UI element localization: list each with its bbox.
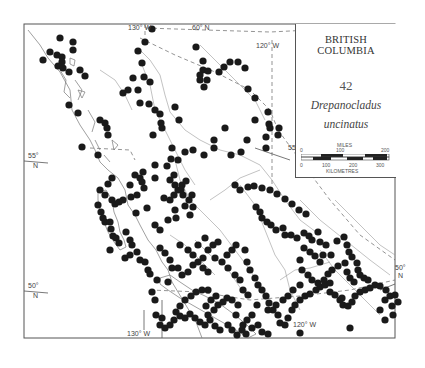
occurrence-dot (128, 241, 135, 248)
occurrence-dot (341, 259, 348, 266)
occurrence-dot (243, 258, 250, 265)
occurrence-dot (196, 76, 203, 83)
occurrence-dot (218, 258, 225, 265)
occurrence-dot (172, 214, 179, 221)
km-tick-0: 0 (300, 162, 303, 168)
occurrence-dot (212, 292, 219, 299)
occurrence-dot (164, 278, 171, 285)
occurrence-dot (262, 144, 269, 151)
occurrence-dot (236, 276, 243, 283)
map-number: 42 (296, 78, 396, 94)
occurrence-dot (156, 110, 163, 117)
occurrence-dot (253, 301, 260, 308)
occurrence-dot (376, 306, 383, 313)
occurrence-dot (262, 292, 269, 299)
occurrence-dot (264, 108, 271, 115)
occurrence-dot (333, 237, 340, 244)
occurrence-dot (244, 291, 251, 298)
occurrence-dot (264, 330, 271, 337)
occurrence-dot (174, 156, 181, 163)
km-tick-300: 300 (376, 162, 384, 168)
occurrence-dot (353, 259, 360, 266)
occurrence-dot (189, 146, 196, 153)
occurrence-dot (81, 72, 88, 79)
occurrence-dot (106, 218, 113, 225)
occurrence-dot (187, 292, 194, 299)
scale-bar: MILES 0 100 200 0 100 200 300 KILOMETRES (296, 142, 396, 174)
miles-tick-100: 100 (336, 147, 344, 153)
occurrence-dot (104, 180, 111, 187)
occurrence-dot (234, 58, 241, 65)
miles-tick-200: 200 (381, 147, 389, 153)
occurrence-dot (308, 236, 315, 243)
occurrence-dot (182, 177, 189, 184)
occurrence-dot (210, 144, 217, 151)
occurrence-dot (246, 266, 253, 273)
occurrence-dot (138, 59, 145, 66)
occurrence-dot (168, 264, 175, 271)
occurrence-dot (146, 270, 153, 277)
occurrence-dot (152, 311, 159, 318)
occurrence-dot (122, 228, 129, 235)
occurrence-dot (103, 124, 110, 131)
occurrence-dot (273, 190, 280, 197)
occurrence-dot (145, 100, 152, 107)
occurrence-dot (202, 302, 209, 309)
occurrence-dot (388, 302, 395, 309)
occurrence-dot (376, 282, 383, 289)
occurrence-dot (151, 221, 158, 228)
occurrence-dot (364, 276, 371, 283)
occurrence-dot (136, 99, 143, 106)
occurrence-dot (272, 301, 279, 308)
miles-tick-0: 0 (300, 147, 303, 153)
occurrence-dot (134, 47, 141, 54)
occurrence-dot (119, 89, 126, 96)
occurrence-dot (258, 184, 265, 191)
occurrence-dot (338, 294, 345, 301)
occurrence-dot (74, 109, 81, 116)
occurrence-dot (216, 326, 223, 333)
label-50-right-n: N (398, 272, 403, 279)
occurrence-dot (274, 131, 281, 138)
occurrence-dot (244, 85, 251, 92)
occurrence-dot (348, 253, 355, 260)
occurrence-dot (244, 183, 251, 190)
occurrence-dot (279, 296, 286, 303)
occurrence-dot (69, 38, 76, 45)
occurrence-dot (251, 94, 258, 101)
occurrence-dot (56, 34, 63, 41)
occurrence-dot (296, 281, 303, 288)
occurrence-dot (164, 216, 171, 223)
species-epithet: uncinatus (296, 118, 396, 130)
occurrence-dot (189, 203, 196, 210)
occurrence-dot (274, 311, 281, 318)
occurrence-dot (224, 264, 231, 271)
occurrence-dot (192, 43, 199, 50)
label-60n: 60° N (192, 24, 210, 31)
occurrence-dot (254, 321, 261, 328)
occurrence-dot (46, 48, 53, 55)
occurrence-dot (65, 101, 72, 108)
label-120w-top: 120° W (256, 42, 279, 49)
occurrence-dot (204, 67, 211, 74)
occurrence-dot (163, 162, 170, 169)
occurrence-dot (94, 201, 101, 208)
occurrence-dot (76, 66, 83, 73)
occurrence-dot (281, 321, 288, 328)
occurrence-dot (78, 143, 85, 150)
occurrence-dot (168, 144, 175, 151)
occurrence-dot (200, 151, 207, 158)
occurrence-dot (298, 266, 305, 273)
occurrence-dot (250, 182, 257, 189)
occurrence-dot (295, 206, 302, 213)
label-55-left: 55° (28, 152, 39, 159)
occurrence-dot (293, 234, 300, 241)
occurrence-dot (328, 266, 335, 273)
occurrence-dot (296, 329, 303, 336)
occurrence-dot (186, 211, 193, 218)
label-50-right: 50° (395, 264, 406, 271)
occurrence-dot (143, 204, 150, 211)
occurrence-dot (227, 151, 234, 158)
occurrence-dot (156, 321, 163, 328)
occurrence-dot (151, 174, 158, 181)
